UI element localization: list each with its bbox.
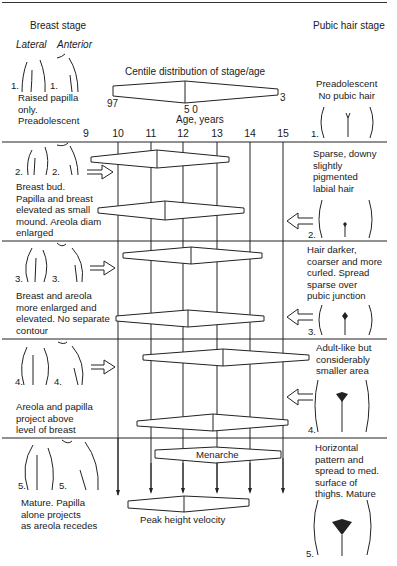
pubic-num-4: 4. bbox=[308, 424, 316, 435]
breast-stage-1-desc: Raised papilla only. Preadolescent bbox=[18, 92, 79, 127]
breast-stage-4-desc: Areola and papilla project above level o… bbox=[16, 401, 93, 436]
breast-stage-5-desc: Mature. Papilla alone projects as areola… bbox=[21, 497, 97, 532]
pubic-stage-2-desc: Sparse, downy slightly pigmented labial … bbox=[313, 148, 376, 194]
pubic-stage-5-desc: Horizontal pattern and spread to med. su… bbox=[315, 442, 379, 500]
breast-anterior-num-4: 4. bbox=[54, 376, 62, 387]
pubic-num-2: 2. bbox=[308, 229, 316, 240]
breast-anterior-num-2: 2. bbox=[52, 166, 60, 177]
pubic-figure-4 bbox=[315, 380, 369, 432]
breast-stage-2-desc: Breast bud. Papilla and breast elevated … bbox=[16, 181, 101, 239]
breast-lateral-num-2: 2. bbox=[15, 166, 23, 177]
pubic-figure-2 bbox=[319, 200, 372, 238]
breast-lateral-num-4: 4. bbox=[15, 376, 23, 387]
breast-stage-3-desc: Breast and areola more enlarged and elev… bbox=[16, 290, 110, 336]
breast-anterior-num-1: 1. bbox=[50, 80, 58, 91]
breast-anterior-num-3: 3. bbox=[52, 273, 60, 284]
pubic-figure-3 bbox=[319, 305, 372, 335]
peak-height-velocity-label: Peak height velocity bbox=[140, 514, 225, 526]
pubic-num-3: 3. bbox=[308, 326, 316, 337]
breast-figure-4 bbox=[22, 342, 83, 385]
pubic-stage-3-desc: Hair darker, coarser and more curled. Sp… bbox=[307, 244, 382, 302]
pubic-num-5: 5. bbox=[306, 548, 314, 559]
pubic-num-1: 1. bbox=[311, 128, 319, 139]
pubic-stage-4-desc: Adult-like but considerably smaller area bbox=[316, 342, 371, 377]
pubic-stage-1-desc: Preadolescent No pubic hair bbox=[316, 78, 377, 101]
breast-lateral-num-1: 1. bbox=[11, 80, 19, 91]
breast-anterior-num-5: 5. bbox=[59, 480, 67, 491]
menarche-label: Menarche bbox=[196, 449, 239, 461]
breast-lateral-num-3: 3. bbox=[15, 273, 23, 284]
pubic-figure-1 bbox=[321, 107, 373, 138]
breast-lateral-num-5: 5. bbox=[18, 480, 26, 491]
